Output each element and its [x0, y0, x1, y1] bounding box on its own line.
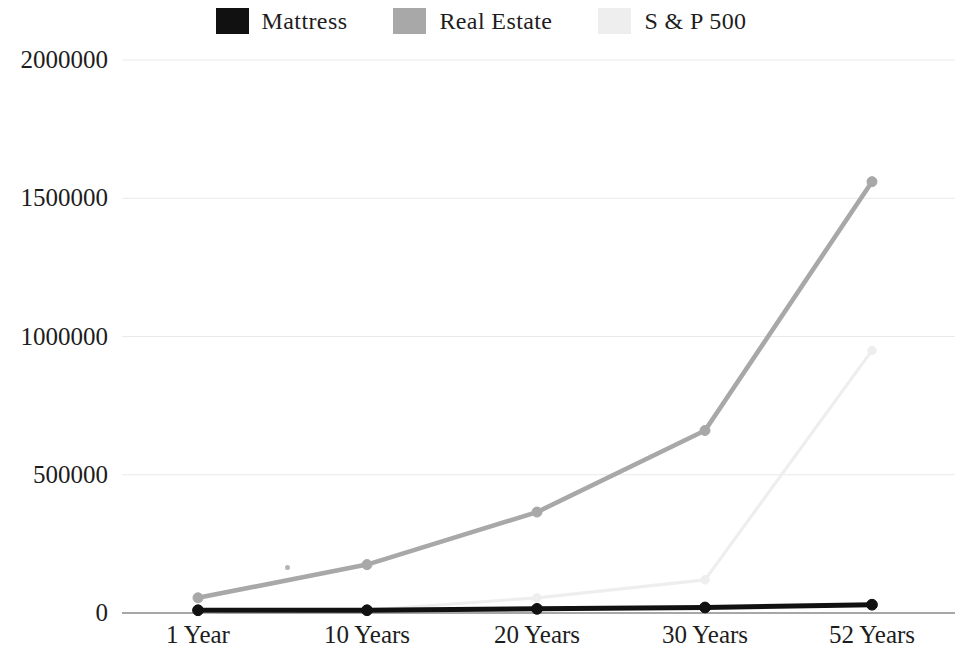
x-axis-tick-label: 1 Year: [166, 622, 230, 647]
x-axis-tick-label: 30 Years: [662, 622, 748, 647]
x-axis-tick-label: 52 Years: [829, 622, 915, 647]
x-axis-tick-label: 10 Years: [324, 622, 410, 647]
x-axis-labels: 1 Year10 Years20 Years30 Years52 Years: [0, 0, 962, 649]
chart-root: Mattress Real Estate S & P 500 050000010…: [0, 0, 962, 649]
x-axis-tick-label: 20 Years: [494, 622, 580, 647]
